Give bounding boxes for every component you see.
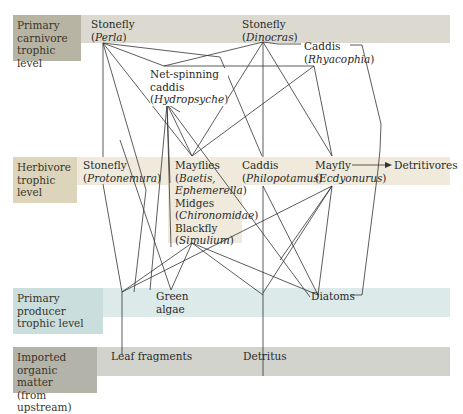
node-stonefly-perla: Stonefly (Perla) [91, 18, 135, 43]
node-name: Diatoms [311, 290, 355, 303]
node-name: Green [156, 290, 189, 303]
node-name: Midges [175, 197, 258, 210]
node-name: algae [156, 303, 189, 316]
node-name: Stonefly [91, 18, 135, 31]
node-detritus: Detritus [243, 350, 287, 363]
node-mayfly-ecdyonurus: Mayfly (Ecdyonurus) [315, 159, 386, 184]
node-genus: (Perla) [91, 31, 135, 44]
node-name: Caddis [304, 40, 374, 53]
node-name: Net-spinning [150, 68, 228, 81]
node-stonefly-dinocras: Stonefly (Dinocras) [242, 18, 298, 43]
node-genus: (Protonemura) [83, 172, 161, 185]
node-genus: (Rhyacophia) [304, 53, 374, 66]
node-genus: (Dinocras) [242, 31, 298, 44]
node-name: Detritivores [394, 159, 458, 172]
node-genus: Ephemerella) [175, 184, 258, 197]
node-name: Blackfly [175, 222, 258, 235]
node-caddis-hydropsyche: Net-spinning caddis (Hydropsyche) [150, 68, 228, 106]
node-name: caddis [150, 81, 228, 94]
node-genus: (Philopotamus) [242, 172, 323, 185]
node-caddis-rhyacophia: Caddis (Rhyacophia) [304, 40, 374, 65]
node-genus: (Simulium) [175, 234, 258, 247]
node-diatoms: Diatoms [311, 290, 355, 303]
node-name: Detritus [243, 350, 287, 363]
node-green-algae: Green algae [156, 290, 189, 315]
node-genus: (Chironomidae) [175, 209, 258, 222]
node-leaf-fragments: Leaf fragments [111, 350, 192, 363]
node-name: Mayfly [315, 159, 386, 172]
node-name: Leaf fragments [111, 350, 192, 363]
node-stonefly-protonemura: Stonefly (Protonemura) [83, 159, 161, 184]
node-genus: (Hydropsyche) [150, 93, 228, 106]
node-name: Caddis [242, 159, 323, 172]
node-detritivores: Detritivores [394, 159, 458, 172]
node-name: Stonefly [242, 18, 298, 31]
node-name: Stonefly [83, 159, 161, 172]
node-caddis-philopotamus: Caddis (Philopotamus) [242, 159, 323, 184]
node-genus: (Ecdyonurus) [315, 172, 386, 185]
